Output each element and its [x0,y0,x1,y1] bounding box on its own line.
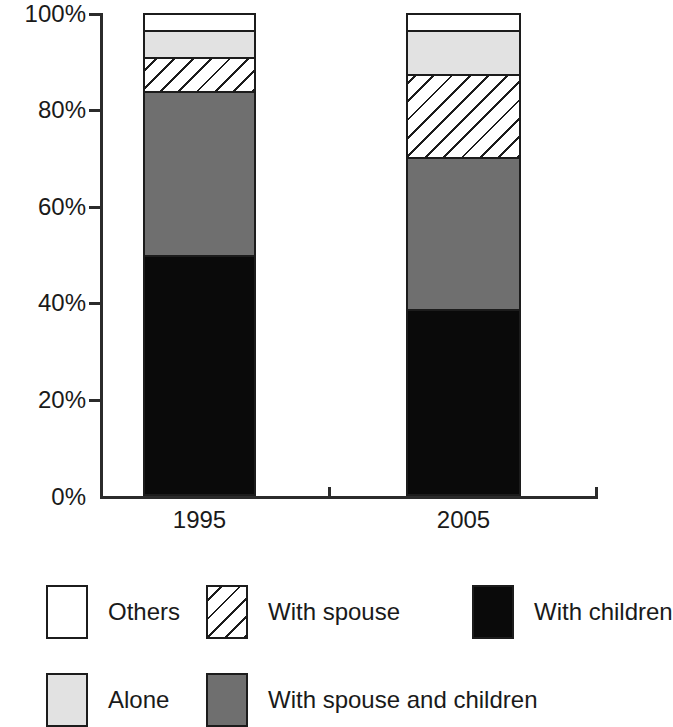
y-axis-line [100,13,103,498]
y-axis-label-100: 100% [25,0,86,28]
bar-2005 [406,13,521,496]
legend-item-with-spouse-and-children: With spouse and children [206,673,537,727]
y-tick-60 [89,206,100,209]
bar-1995-segment-with-spouse [143,57,256,91]
legend-label-with-spouse-and-children: With spouse and children [268,686,537,714]
y-axis-label-60: 60% [38,193,86,221]
y-axis-label-40: 40% [38,289,86,317]
bar-2005-segment-with-children [406,309,521,496]
legend-label-alone: Alone [108,686,169,714]
legend-label-others: Others [108,598,180,626]
y-axis-label-80: 80% [38,96,86,124]
bar-2005-segment-with-spouse-and-children [406,157,521,309]
legend-item-with-spouse: With spouse [206,585,400,639]
legend-label-with-children: With children [534,598,673,626]
y-tick-80 [89,109,100,112]
y-tick-20 [89,399,100,402]
x-tick-middle [328,487,331,499]
bar-1995-segment-with-children [143,255,256,496]
legend-swatch-with-spouse-icon [206,585,248,639]
bar-1995-segment-alone [143,30,256,57]
y-axis-label-20: 20% [38,386,86,414]
bar-1995-segment-with-spouse-and-children [143,91,256,255]
bar-2005-segment-others [406,13,521,30]
bar-1995-segment-others [143,13,256,30]
x-axis-label-1995: 1995 [143,506,256,534]
y-axis-label-0: 0% [51,483,86,511]
x-axis-label-2005: 2005 [406,506,521,534]
legend-item-with-children: With children [472,585,673,639]
legend-item-others: Others [46,585,180,639]
legend-swatch-others-icon [46,585,88,639]
plot-area: 100% 80% 60% 40% 20% 0% [0,0,637,560]
legend-swatch-with-children-icon [472,585,514,639]
y-tick-40 [89,302,100,305]
legend-swatch-alone-icon [46,673,88,727]
chart-legend: Others With spouse With children Alone W… [0,560,637,714]
bar-1995 [143,13,256,496]
x-tick-end [595,487,598,499]
bar-2005-segment-with-spouse [406,74,521,157]
y-tick-100 [89,13,100,16]
x-axis-line [100,496,598,499]
legend-swatch-with-spouse-and-children-icon [206,673,248,727]
legend-label-with-spouse: With spouse [268,598,400,626]
legend-item-alone: Alone [46,673,169,727]
bar-2005-segment-alone [406,30,521,74]
